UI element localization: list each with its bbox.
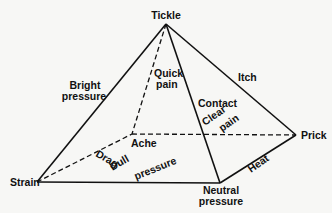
vertex-label-neutral-pressure: pressure — [199, 195, 244, 207]
vertex-label-tickle: Tickle — [151, 9, 181, 21]
pyramid-svg: Tickle Strain Ache Prick Neutral pressur… — [0, 0, 332, 213]
edge-label-bright-pressure: pressure — [62, 90, 107, 102]
sensation-pyramid-diagram: Tickle Strain Ache Prick Neutral pressur… — [0, 0, 332, 213]
vertex-label-strain: Strain — [10, 176, 40, 188]
edge-label-itch: Itch — [238, 71, 257, 83]
edge-strain-neutral — [37, 182, 220, 183]
vertex-label-prick: Prick — [301, 129, 327, 141]
edge-ache-prick — [132, 134, 296, 135]
edge-label-quick-pain: pain — [156, 78, 178, 90]
edge-label-heat: Heat — [245, 151, 271, 174]
edge-label-dull-pressure: pressure — [132, 154, 178, 182]
vertex-label-ache: Ache — [131, 137, 157, 149]
